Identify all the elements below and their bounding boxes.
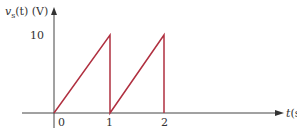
y-tick-10: 10	[30, 29, 44, 42]
x-axis-label: t(s)	[286, 107, 297, 120]
x-tick-2: 2	[161, 116, 168, 129]
x-tick-0: 0	[58, 116, 65, 129]
sawtooth-chart: vs(t) (V) 10 0 1 2 t(s)	[0, 0, 297, 133]
x-tick-1: 1	[106, 116, 113, 129]
sawtooth-signal	[54, 35, 164, 113]
y-axis-label: vs(t) (V)	[5, 5, 48, 20]
y-axis-arrow-icon	[51, 7, 57, 15]
x-axis-arrow-icon	[275, 110, 284, 116]
